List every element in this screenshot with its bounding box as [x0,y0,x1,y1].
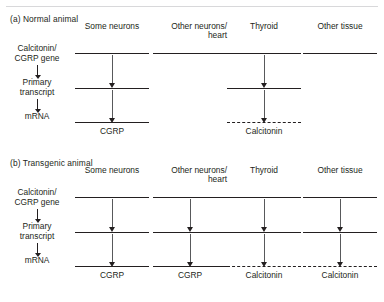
gene-bar [75,197,149,198]
column-header: Other neurons/ heart [150,166,230,185]
stage-label-gene: Calcitonin/ CGRP gene [0,44,74,63]
column-header: Some neurons [72,166,152,175]
transcription-arrow [112,199,113,228]
gene-bar [75,53,149,54]
column-header: Thyroid [224,22,304,31]
column-header: Thyroid [224,166,304,175]
splicing-arrow [112,90,113,119]
stage-label-mrna: mRNA [0,112,74,122]
splicing-arrow [264,234,265,263]
transcript-bar [303,232,377,233]
splicing-arrow [190,234,191,263]
product-label: Calcitonin [224,270,304,280]
panel-a-title: (a) Normal animal [10,14,78,24]
transcript-bar [227,88,301,89]
product-label: CGRP [150,270,230,280]
transcript-bar [153,232,227,233]
stage-label-mrna: mRNA [0,256,74,266]
top-divider-rule [6,6,378,7]
stage-arrow-processing [37,99,38,110]
mrna-bar [75,122,149,123]
transcription-arrow [112,55,113,84]
stage-arrow-processing [37,243,38,254]
product-label: Calcitonin [224,126,304,136]
gene-bar [303,53,377,54]
transcript-bar [227,232,301,233]
transcription-arrow [264,199,265,228]
mrna-bar [227,266,301,267]
splicing-arrow [264,90,265,119]
gene-bar [153,197,227,198]
transcription-arrow [264,55,265,84]
column-header: Some neurons [72,22,152,31]
splicing-arrow [340,234,341,263]
product-label: CGRP [72,270,152,280]
stage-arrow-transcription [37,65,38,76]
mrna-bar [75,266,149,267]
panel-normal-animal: (a) Normal animal Calcitonin/ CGRP gene … [0,14,384,158]
stage-label-transcript: Primary transcript [0,222,74,241]
gene-bar [153,53,227,54]
transcript-bar [75,88,149,89]
product-label: CGRP [72,126,152,136]
mrna-bar [227,122,301,123]
mrna-bar [153,266,227,267]
column-header: Other tissue [300,22,380,31]
transcription-arrow [340,199,341,228]
gene-bar [227,197,301,198]
gene-bar [227,53,301,54]
panel-transgenic-animal: (b) Transgenic animal Calcitonin/ CGRP g… [0,158,384,302]
stage-arrow-transcription [37,209,38,220]
figure-root: (a) Normal animal Calcitonin/ CGRP gene … [0,0,384,302]
splicing-arrow [112,234,113,263]
transcript-bar [75,232,149,233]
product-label: Calcitonin [300,270,380,280]
stage-label-transcript: Primary transcript [0,78,74,97]
mrna-bar [303,266,377,267]
gene-bar [303,197,377,198]
transcription-arrow [190,199,191,228]
stage-label-gene: Calcitonin/ CGRP gene [0,188,74,207]
column-header: Other neurons/ heart [150,22,230,41]
column-header: Other tissue [300,166,380,175]
